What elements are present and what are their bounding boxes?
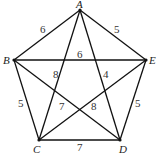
vertex-labels: A B C D E <box>3 0 156 155</box>
vertex-d <box>118 138 121 141</box>
weight-c-d: 7 <box>77 141 83 153</box>
weight-a-d: 4 <box>103 68 109 80</box>
weight-a-e: 5 <box>114 23 120 35</box>
vertex-label-d: D <box>118 143 127 155</box>
edges <box>14 10 146 140</box>
vertex-b <box>12 58 15 61</box>
pentagon-graph: A B C D E 6 5 6 8 4 5 5 7 8 7 <box>0 0 157 163</box>
vertex-label-b: B <box>3 54 10 66</box>
weight-b-e: 6 <box>77 48 83 60</box>
weight-b-c: 5 <box>18 97 24 109</box>
vertex-label-c: C <box>33 143 41 155</box>
vertex-label-e: E <box>148 54 156 66</box>
vertex-label-a: A <box>75 0 83 10</box>
weight-e-d: 5 <box>135 97 141 109</box>
edge-a-e <box>80 10 146 60</box>
weight-b-d: 7 <box>59 100 65 112</box>
edge-e-d <box>120 60 146 140</box>
vertex-c <box>37 138 40 141</box>
vertex-e <box>144 58 147 61</box>
weight-c-e: 8 <box>91 100 97 112</box>
edge-a-b <box>14 10 80 60</box>
weight-a-c: 8 <box>53 68 59 80</box>
weight-a-b: 6 <box>40 23 46 35</box>
